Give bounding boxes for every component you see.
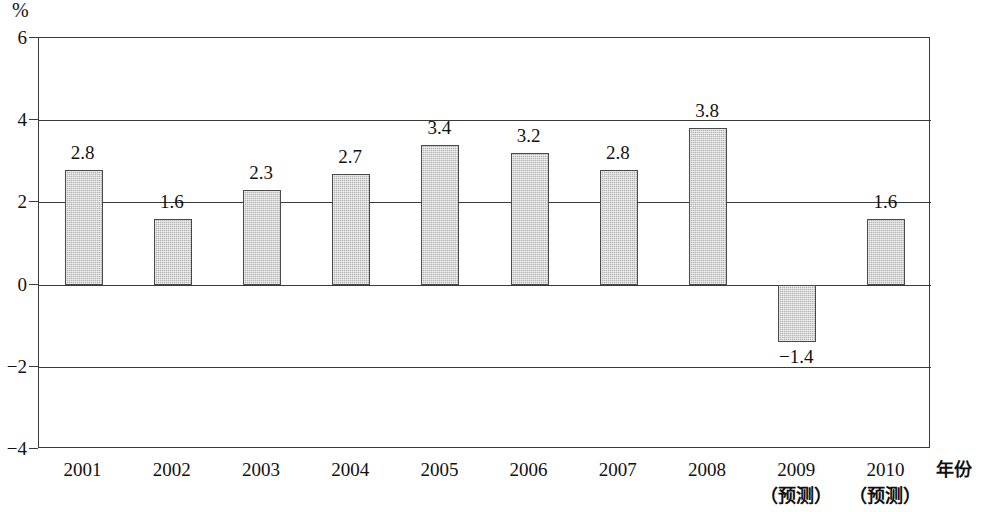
y-axis-tick-mark xyxy=(29,448,38,449)
x-axis-tick-label: 2002 xyxy=(127,459,217,481)
x-axis-tick-label: 2004 xyxy=(305,459,395,481)
bar-value-label: −1.4 xyxy=(756,347,836,366)
y-axis-unit-label: % xyxy=(12,0,29,21)
x-axis-tick-label: 2001 xyxy=(38,459,128,481)
bar xyxy=(511,153,549,285)
x-axis-tick-label: 2010 xyxy=(840,459,930,481)
x-axis-tick-label: 2003 xyxy=(216,459,306,481)
bar xyxy=(65,170,103,285)
y-axis-tick-label: 4 xyxy=(0,110,27,129)
y-axis-tick-label: −4 xyxy=(0,439,27,458)
y-axis-tick-label: 6 xyxy=(0,28,27,47)
bar-value-label: 2.8 xyxy=(43,143,123,162)
bar xyxy=(600,170,638,285)
y-axis-tick-mark xyxy=(29,366,38,367)
y-axis-tick-mark xyxy=(29,284,38,285)
bar-value-label: 2.7 xyxy=(310,147,390,166)
bar xyxy=(421,145,459,285)
bar-value-label: 1.6 xyxy=(845,192,925,211)
bar-value-label: 3.8 xyxy=(667,101,747,120)
plot-area xyxy=(38,37,930,448)
y-axis-tick-label: 2 xyxy=(0,192,27,211)
x-axis-tick-label: 2008 xyxy=(662,459,752,481)
y-axis-tick-label: 0 xyxy=(0,275,27,294)
bar-value-label: 1.6 xyxy=(132,192,212,211)
bar xyxy=(243,190,281,285)
y-axis-tick-mark xyxy=(29,119,38,120)
bar-value-label: 2.8 xyxy=(578,143,658,162)
bar-chart: % 6420−2−4 2.81.62.32.73.43.22.83.8−1.41… xyxy=(0,0,986,512)
x-axis-tick-label: 2006 xyxy=(484,459,574,481)
x-axis-tick-label: 2007 xyxy=(573,459,663,481)
bar xyxy=(867,219,905,285)
bar xyxy=(689,128,727,284)
y-axis-tick-mark xyxy=(29,37,38,38)
x-axis-title: 年份 xyxy=(936,459,972,481)
bar-value-label: 3.2 xyxy=(489,126,569,145)
bar xyxy=(778,285,816,343)
y-axis-tick-mark xyxy=(29,201,38,202)
x-axis-tick-label: 2005 xyxy=(394,459,484,481)
bar xyxy=(332,174,370,285)
x-axis-tick-label: 2009 xyxy=(751,459,841,481)
bar-value-label: 3.4 xyxy=(399,118,479,137)
bar xyxy=(154,219,192,285)
gridline xyxy=(39,120,931,121)
bar-value-label: 2.3 xyxy=(221,163,301,182)
x-axis-tick-sublabel: （预测） xyxy=(835,485,935,507)
x-axis-tick-sublabel: （预测） xyxy=(746,485,846,507)
y-axis-tick-label: −2 xyxy=(0,357,27,376)
